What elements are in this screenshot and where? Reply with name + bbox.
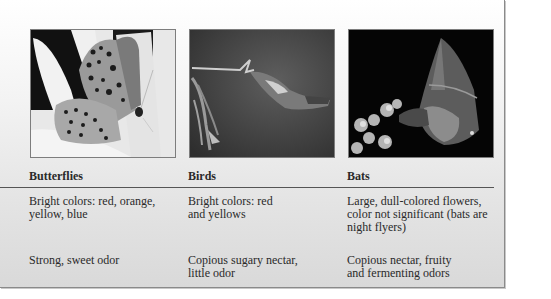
column-header-butterflies: Butterflies [29, 170, 179, 183]
pollinator-table-panel: Butterflies Birds Bats Bright colors: re… [0, 0, 505, 288]
cell-birds-color: Bright colors: red and yellows [188, 195, 338, 221]
butterfly-photo [30, 29, 176, 158]
column-header-bats: Bats [347, 170, 507, 183]
cell-butterflies-odor: Strong, sweet odor [29, 254, 179, 267]
cell-bats-odor: Copious nectar, fruity and fermenting od… [347, 254, 507, 280]
cell-birds-odor: Copious sugary nectar, little odor [188, 254, 338, 280]
hummingbird-photo [189, 29, 335, 158]
cell-butterflies-color: Bright colors: red, orange, yellow, blue [29, 195, 179, 221]
bat-photo [348, 29, 494, 158]
header-divider [0, 187, 494, 188]
column-header-birds: Birds [188, 170, 338, 183]
cell-bats-color: Large, dull-colored flowers, color not s… [347, 195, 507, 234]
